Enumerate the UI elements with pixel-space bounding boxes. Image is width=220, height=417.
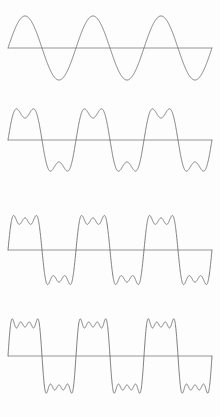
waveform-panel-4: 4 terms (through 7th harmonic) — sin(x) … [0,305,220,417]
waveform-panel-2: 2 terms (fundamental + 3rd harmonic) — s… [0,96,220,196]
waveform-panel-1: 1 term (fundamental) — sin(x) [0,0,220,96]
waveform-panel-3: 3 terms (through 5th harmonic) — sin(x) … [0,200,220,300]
fourier-synthesis-figure: 1 term (fundamental) — sin(x)2 terms (fu… [0,0,220,417]
